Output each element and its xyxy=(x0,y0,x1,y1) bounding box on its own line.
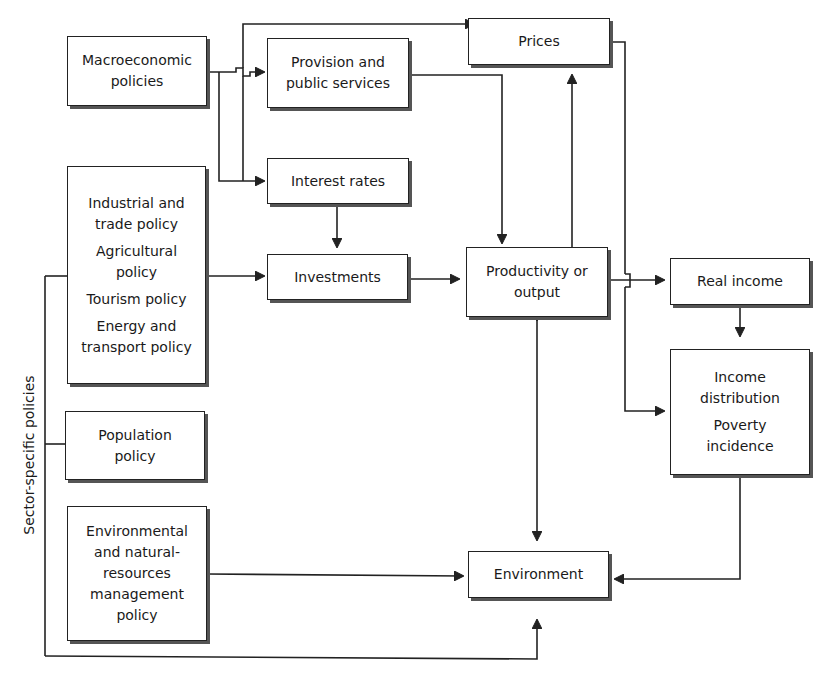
population-policy-box: Population policy xyxy=(65,411,205,480)
sector-specific-policies-label: Sector-specific policies xyxy=(14,345,44,565)
environmental-policy-box: Environmental and natural- resources man… xyxy=(67,506,207,641)
income-distribution-poverty-box: Income distribution Poverty incidence xyxy=(670,349,810,475)
productivity-output-box: Productivity or output xyxy=(466,247,608,317)
sector-policies-box: Industrial and trade policy Agricultural… xyxy=(67,166,206,384)
prices-box: Prices xyxy=(468,18,610,65)
environment-box: Environment xyxy=(468,551,609,598)
investments-box: Investments xyxy=(267,254,408,300)
policy-impact-diagram: Sector-specific policies Macroeconomic p… xyxy=(0,0,831,687)
interest-rates-box: Interest rates xyxy=(267,158,409,204)
macroeconomic-policies-box: Macroeconomic policies xyxy=(67,36,207,106)
provision-public-services-box: Provision and public services xyxy=(267,38,409,108)
real-income-box: Real income xyxy=(670,258,810,305)
